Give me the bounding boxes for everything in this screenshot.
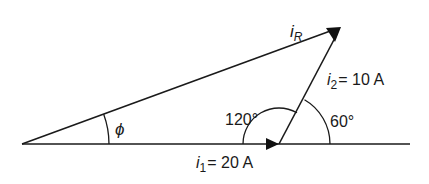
i1-arrowhead bbox=[266, 138, 279, 150]
phi-label: ϕ bbox=[115, 120, 124, 139]
i2-phasor bbox=[279, 34, 337, 144]
i2-subscript: 2 bbox=[331, 78, 338, 92]
i2-label: i2= 10 A bbox=[327, 71, 384, 92]
i1-value: = 20 A bbox=[207, 154, 253, 171]
iR-phasor bbox=[22, 30, 333, 144]
angle-60-label: 60° bbox=[330, 113, 354, 130]
angle-60-arc bbox=[305, 100, 331, 144]
angle-120-label: 120° bbox=[225, 111, 258, 128]
iR-label: iR bbox=[290, 22, 303, 44]
i1-subscript: 1 bbox=[200, 161, 207, 175]
phasor-diagram: iR i2= 10 A i1= 20 A 120° 60° ϕ bbox=[0, 0, 429, 184]
i2-value: = 10 A bbox=[338, 71, 384, 88]
iR-subscript: R bbox=[294, 30, 303, 44]
phi-angle-arc bbox=[104, 114, 109, 144]
i1-label: i1= 20 A bbox=[196, 154, 253, 175]
